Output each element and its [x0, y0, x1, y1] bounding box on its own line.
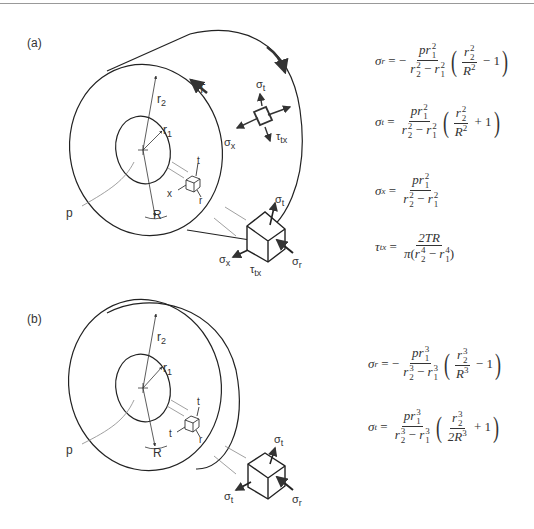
- label-r2-b: r2: [157, 330, 166, 344]
- label-axis-x: x: [167, 188, 172, 199]
- figure-b-small-element: [177, 407, 200, 437]
- label-sigma-x-surface: σx: [224, 136, 235, 148]
- label-axis-t-left-b: t: [169, 428, 172, 439]
- equation-sigma-r-a: σr = − pr21 r22 − r21 (r22R2 − 1): [375, 42, 510, 79]
- label-sigma-t-top-b: σt: [274, 433, 283, 445]
- label-sigma-t-left-b: σt: [224, 490, 233, 502]
- label-R: R: [153, 208, 162, 222]
- figure-drawings: [0, 0, 534, 529]
- equation-sigma-t-b: σt = pr31 r32 − r31 (r322R3 + 1): [368, 408, 501, 445]
- label-sigma-r-cube: σr: [292, 255, 302, 267]
- label-sigma-t-cube: σt: [275, 193, 284, 205]
- label-torque: T: [198, 82, 205, 96]
- label-tau-tx-cube: τtx: [250, 263, 261, 275]
- label-tau-tx-surface: τtx: [276, 130, 287, 142]
- label-axis-t-top-b: t: [197, 396, 200, 407]
- label-sigma-r-b: σr: [292, 493, 302, 505]
- label-axis-r: r: [199, 195, 202, 206]
- label-pressure: p: [66, 206, 73, 220]
- label-r1: r1: [163, 123, 172, 137]
- label-axis-r-b: r: [199, 434, 202, 445]
- label-sigma-x-cube: σx: [219, 253, 230, 265]
- figure-b-large-element: [236, 448, 293, 499]
- panel-label-a: (a): [27, 36, 42, 50]
- label-sigma-t-surface: σt: [256, 78, 265, 90]
- equation-tau-tx-a: τtx = 2TR π(r42 − r41): [375, 230, 458, 264]
- equation-sigma-t-a: σt = pr21 r22 − r21 (r22R2 + 1): [375, 103, 502, 140]
- panel-label-b: (b): [27, 312, 42, 326]
- equation-sigma-x-a: σx = pr21 r22 − r21: [375, 172, 442, 209]
- label-r1-b: r1: [163, 361, 172, 375]
- label-R-b: R: [153, 446, 162, 460]
- label-pressure-b: p: [66, 443, 73, 457]
- equation-sigma-r-b: σr = − pr31 r32 − r31 (r32R3 − 1): [368, 345, 503, 382]
- label-axis-t: t: [197, 155, 200, 166]
- label-r2: r2: [157, 92, 166, 106]
